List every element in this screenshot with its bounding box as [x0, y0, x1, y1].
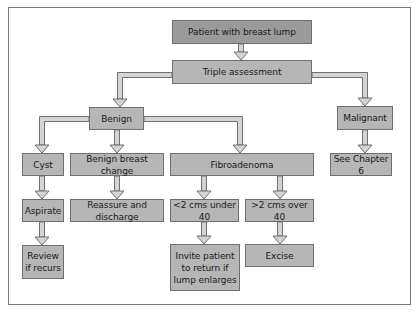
- node-review-if-recurs: Review if recurs: [22, 245, 64, 279]
- node-triple-assessment: Triple assessment: [172, 60, 312, 84]
- node-aspirate: Aspirate: [22, 199, 64, 222]
- node-see-chapter-6: See Chapter 6: [330, 153, 392, 176]
- node-fibroadenoma: Fibroadenoma: [170, 153, 314, 176]
- node-label: Invite patient to return if lump enlarge…: [174, 250, 237, 286]
- node-label: Review if recurs: [25, 250, 61, 274]
- node-label: Excise: [266, 250, 294, 262]
- node-label: Aspirate: [25, 205, 62, 217]
- node-under-2cm-under-40: <2 cms under 40: [170, 199, 239, 222]
- node-label: See Chapter 6: [331, 153, 391, 177]
- node-malignant: Malignant: [337, 106, 393, 130]
- node-excise: Excise: [245, 244, 314, 267]
- node-label: >2 cms over 40: [246, 199, 313, 223]
- node-reassure-and-discharge: Reassure and discharge: [70, 199, 164, 222]
- node-over-2cm-over-40: >2 cms over 40: [245, 199, 314, 222]
- node-label: Malignant: [343, 112, 387, 124]
- node-patient-with-breast-lump: Patient with breast lump: [172, 20, 312, 44]
- node-label: Patient with breast lump: [188, 26, 296, 38]
- node-label: Reassure and discharge: [71, 199, 163, 223]
- node-label: Benign breast change: [71, 153, 163, 177]
- node-benign: Benign: [89, 107, 144, 130]
- node-label: Benign: [101, 113, 132, 125]
- node-label: Triple assessment: [203, 66, 282, 78]
- node-cyst: Cyst: [22, 153, 64, 176]
- node-invite-patient: Invite patient to return if lump enlarge…: [170, 244, 240, 291]
- node-label: Fibroadenoma: [211, 159, 274, 171]
- node-benign-breast-change: Benign breast change: [70, 153, 164, 176]
- node-label: <2 cms under 40: [171, 199, 238, 223]
- node-label: Cyst: [33, 159, 52, 171]
